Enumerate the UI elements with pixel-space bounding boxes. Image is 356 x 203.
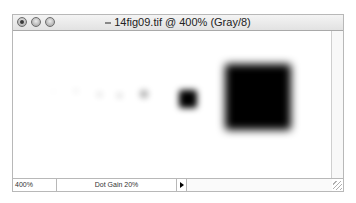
horizontal-scrollbar[interactable] [187, 179, 332, 191]
document-window: 14fig09.tif @ 400% (Gray/8) 400% Dot Gai… [12, 14, 344, 192]
halftone-dot [97, 92, 102, 97]
resize-grip-icon[interactable] [333, 181, 342, 190]
halftone-dot [117, 93, 122, 98]
vertical-scrollbar[interactable] [331, 31, 343, 179]
document-proxy-icon[interactable] [105, 22, 111, 24]
title-bar[interactable]: 14fig09.tif @ 400% (Gray/8) [13, 15, 343, 31]
halftone-dot [179, 90, 197, 108]
document-info: Dot Gain 20% [57, 179, 177, 191]
image-canvas[interactable] [13, 31, 332, 179]
status-bar: 400% Dot Gain 20% [13, 178, 343, 191]
window-title: 14fig09.tif @ 400% (Gray/8) [13, 16, 343, 28]
halftone-dot [52, 90, 55, 93]
zoom-level-field[interactable]: 400% [13, 179, 57, 191]
halftone-dot [140, 90, 148, 98]
halftone-dot [74, 89, 78, 93]
halftone-dot [225, 64, 291, 130]
status-menu-arrow-icon[interactable] [177, 179, 187, 191]
